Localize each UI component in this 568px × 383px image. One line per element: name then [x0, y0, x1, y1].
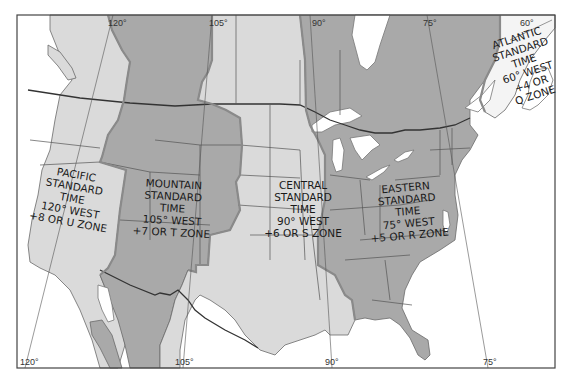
time-zone-map: 120° 105° 90° 75° 60° 120° 105° 90° 75° …	[0, 0, 568, 383]
meridian-label-90-bottom: 90°	[325, 357, 339, 367]
meridian-label-120-top: 120°	[108, 18, 127, 28]
meridian-label-120-bottom: 120°	[20, 357, 39, 367]
meridian-label-75-top: 75°	[423, 18, 437, 28]
svg-text:STANDARD: STANDARD	[274, 191, 332, 203]
meridian-label-105-top: 105°	[209, 18, 228, 28]
meridian-label-105-bottom: 105°	[175, 357, 194, 367]
svg-text:+6 OR S ZONE: +6 OR S ZONE	[264, 227, 342, 239]
svg-text:90° WEST: 90° WEST	[277, 215, 330, 227]
meridian-label-75-bottom: 75°	[483, 357, 497, 367]
meridian-label-90-top: 90°	[312, 18, 326, 28]
svg-text:CENTRAL: CENTRAL	[279, 179, 327, 191]
svg-text:TIME: TIME	[289, 203, 315, 215]
